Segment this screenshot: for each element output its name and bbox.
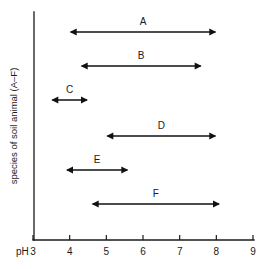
arrow-head-right-icon <box>81 96 88 103</box>
x-axis-tick-label: 9 <box>250 246 256 257</box>
arrow-head-left-icon <box>106 132 113 139</box>
arrow-head-left-icon <box>81 62 88 69</box>
arrow-head-right-icon <box>195 62 202 69</box>
range-bar-b: B <box>81 50 202 70</box>
x-axis-tick-label: 8 <box>214 246 220 257</box>
range-label: D <box>158 120 165 131</box>
x-axis-tick-label: 4 <box>67 246 73 257</box>
arrow-head-left-icon <box>66 166 73 173</box>
arrow-head-right-icon <box>209 132 216 139</box>
range-label: C <box>66 84 73 95</box>
range-label: B <box>138 50 145 61</box>
x-axis-prefix-label: pH <box>16 246 29 257</box>
arrow-head-left-icon <box>51 96 58 103</box>
x-axis-tick-group: 3456789 <box>30 235 256 257</box>
x-axis-tick-label: 5 <box>104 246 110 257</box>
arrow-head-left-icon <box>92 200 99 207</box>
y-axis-title: species of soil animal (A–F) <box>8 68 19 185</box>
range-bar-f: F <box>92 188 220 208</box>
ph-tolerance-range-chart: species of soil animal (A–F) pH 3456789 … <box>0 0 270 269</box>
range-bar-e: E <box>66 154 128 174</box>
chart-canvas: species of soil animal (A–F) pH 3456789 … <box>0 0 270 269</box>
range-bar-d: D <box>106 120 216 140</box>
range-label: E <box>94 154 101 165</box>
range-bar-a: A <box>70 16 217 36</box>
arrow-head-right-icon <box>213 200 220 207</box>
range-bar-group: ABCDEF <box>51 16 220 208</box>
arrow-head-left-icon <box>70 28 77 35</box>
x-axis-tick-label: 7 <box>177 246 183 257</box>
arrow-head-right-icon <box>121 166 128 173</box>
range-label: A <box>140 16 147 27</box>
x-axis-tick-label: 3 <box>30 246 36 257</box>
range-label: F <box>153 188 159 199</box>
range-bar-c: C <box>51 84 88 104</box>
arrow-head-right-icon <box>209 28 216 35</box>
x-axis-tick-label: 6 <box>140 246 146 257</box>
